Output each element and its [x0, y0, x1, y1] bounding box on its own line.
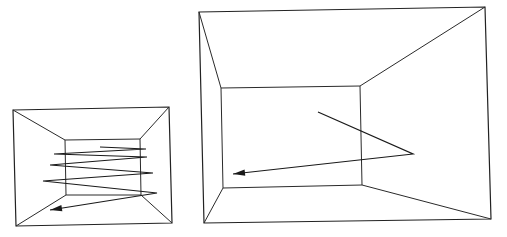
perspective-edge	[140, 107, 169, 139]
trajectory-path	[233, 112, 413, 174]
trajectory-path	[43, 147, 157, 210]
perspective-edge	[204, 188, 223, 223]
perspective-edge	[13, 110, 65, 140]
perspective-edge	[362, 185, 491, 219]
small-room-figure	[13, 107, 172, 226]
perspective-edge	[199, 12, 221, 88]
arrowhead-icon	[50, 205, 62, 211]
outer-wall-frame	[199, 7, 491, 223]
large-room-figure	[199, 7, 491, 223]
perspective-edge	[360, 7, 485, 86]
outer-wall-frame	[13, 107, 172, 226]
room-diagrams	[0, 0, 507, 237]
arrowhead-icon	[233, 169, 245, 175]
perspective-edge	[141, 195, 172, 223]
